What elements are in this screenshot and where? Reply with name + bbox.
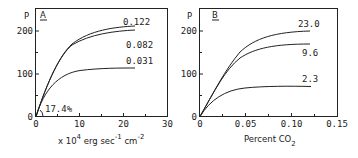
panel-a-y-ticks [36,31,40,96]
panel-b-x-ticks [223,113,315,117]
panel-a-xtick-20: 20 [118,119,129,129]
panel-b-label: B [212,10,218,20]
panel-a-ylabel: P [24,11,29,21]
panel-b-xtick-0: 0 [197,119,202,129]
panel-b-xtick-0.10: 0.10 [281,119,303,129]
panel-a-xtick-10: 10 [74,119,85,129]
panel-a-ytick-100: 100 [17,69,33,79]
panel-a-ytick-0: 0 [28,112,33,122]
panel-a-xlabel: x 104 erg sec-1 cm-2 [58,133,144,146]
panel-a-series-label-0.031: 0.031 [126,56,153,66]
panel-b-series-label-2.3: 2.3 [302,74,318,84]
figure: P A 200 100 0 0 10 20 30 x 104 erg sec-1… [0,0,358,158]
panel-b-series-label-9.6: 9.6 [302,48,318,58]
panel-a: P A 200 100 0 0 10 20 30 x 104 erg sec-1… [17,9,173,147]
panel-b-curve-2.3 [200,86,311,116]
panel-a-ytick-200: 200 [17,26,33,36]
panel-b-y-ticks [200,31,204,96]
panel-a-series-label-0.122: 0.122 [123,17,150,27]
panel-b-xtick-0.15: 0.15 [326,119,348,129]
panel-a-xtick-0: 0 [33,119,38,129]
panel-a-angle-arc [40,110,43,117]
panel-b-ytick-0: 0 [192,112,197,122]
panel-a-label: A [40,10,46,20]
panel-b-series-label-23.0: 23.0 [298,19,320,29]
panel-a-annotation: 17.4% [45,104,73,114]
panel-b-ytick-100: 100 [181,69,197,79]
panel-b: P B 200 100 0 0 0.05 0.10 0.15 Percent C… [181,9,348,149]
panel-b-xtick-0.05: 0.05 [235,119,257,129]
panel-b-ylabel: P [187,11,192,21]
panel-a-xtick-30: 30 [162,119,173,129]
panel-b-ytick-200: 200 [181,26,197,36]
panel-b-xlabel: Percent CO2 [244,134,296,148]
panel-a-series-label-0.082: 0.082 [126,40,153,50]
panel-b-curve-9.6 [200,44,310,117]
panel-b-curve-23.0 [200,31,310,117]
panel-a-curve-0.122 [36,26,135,117]
